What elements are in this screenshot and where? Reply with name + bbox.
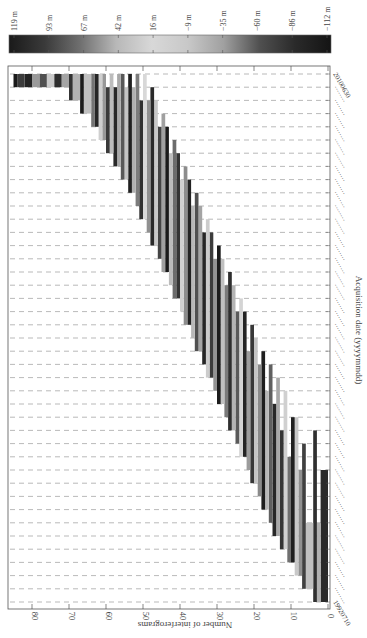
interferogram-bar — [128, 74, 132, 193]
count-tick-label: 70 — [67, 612, 77, 621]
interferogram-bar — [121, 74, 125, 180]
interferogram-bar — [169, 153, 173, 285]
colorbar-tick-label: 42 m — [114, 14, 123, 31]
count-tick-label: 10 — [289, 612, 299, 621]
interferogram-bar — [102, 74, 106, 140]
interferogram-bar — [32, 74, 39, 87]
interferogram-bar — [80, 74, 84, 114]
interferogram-bar — [117, 74, 121, 166]
interferogram-bar — [243, 312, 247, 457]
interferogram-bar — [125, 87, 129, 179]
interferogram-bar — [73, 74, 80, 100]
count-axis-label: Number of interferograms — [137, 620, 232, 630]
interferogram-bar — [187, 180, 191, 325]
interferogram-bar — [158, 127, 162, 259]
count-tick-label: 80 — [30, 612, 40, 621]
interferogram-bar — [162, 114, 166, 272]
interferogram-bar — [47, 74, 54, 87]
interferogram-bar — [291, 417, 295, 562]
interferogram-bar — [199, 206, 203, 351]
interferogram-bar — [276, 378, 280, 536]
interferogram-bar — [113, 87, 117, 166]
interferogram-bar — [132, 87, 136, 193]
interferogram-bar — [258, 364, 262, 496]
interferogram-bar — [317, 523, 321, 602]
colorbar-tick-label: 93 m — [45, 14, 54, 31]
interferogram-bar — [176, 153, 180, 298]
interferogram-bar — [184, 166, 188, 324]
interferogram-bar — [284, 391, 288, 549]
interferogram-bar — [250, 325, 254, 483]
interferogram-bar — [224, 285, 228, 417]
interferogram-bar — [261, 351, 265, 509]
interferogram-bar — [239, 298, 243, 456]
interferogram-bar — [165, 127, 169, 272]
interferogram-bar — [280, 430, 284, 549]
interferogram-bar — [306, 523, 313, 589]
interferogram-bar — [95, 74, 99, 127]
interferogram-bar — [110, 74, 114, 153]
colorbar-tick-label: −9 m — [184, 13, 193, 31]
count-tick-label: 30 — [215, 612, 225, 621]
interferogram-bar — [17, 74, 24, 87]
colorbar-tick-label: −112 m — [323, 6, 332, 31]
interferogram-bar — [295, 417, 299, 575]
count-tick-label: 50 — [141, 612, 151, 621]
colorbar-gradient — [9, 35, 331, 53]
interferogram-bar — [213, 259, 217, 391]
interferogram-bar — [313, 430, 317, 602]
colorbar-tick-label: 67 m — [80, 14, 89, 31]
interferogram-bar — [14, 74, 18, 87]
interferogram-bar — [84, 74, 91, 114]
interferogram-bar — [39, 74, 46, 87]
colorbar-tick-label: −86 m — [288, 9, 297, 31]
interferogram-bar — [254, 338, 258, 483]
interferogram-bar — [302, 444, 306, 589]
count-tick-label: 60 — [104, 612, 114, 621]
colorbar-tick-label: 119 m — [10, 10, 19, 31]
chart-figure: 119 m93 m67 m42 m16 m−9 m−35 m−60 m−86 m… — [0, 0, 367, 638]
interferogram-bar — [217, 246, 221, 404]
interferogram-bar — [99, 74, 103, 140]
colorbar-tick-label: −35 m — [219, 9, 228, 31]
interferogram-bar — [202, 232, 206, 364]
count-tick-label: 40 — [178, 612, 188, 621]
interferogram-bar — [139, 100, 143, 219]
interferogram-bar — [232, 285, 236, 430]
interferogram-bar — [147, 100, 151, 232]
interferogram-bar — [221, 259, 225, 404]
interferogram-bar — [273, 404, 277, 536]
colorbar-tick-label: −60 m — [253, 9, 262, 31]
date-axis-label: Acquisition date (yyyymmdd) — [354, 276, 364, 384]
interferogram-bar — [180, 180, 184, 312]
count-tick-label: 0 — [326, 614, 336, 618]
interferogram-bar — [143, 74, 147, 219]
interferogram-bar — [206, 219, 210, 377]
interferogram-bar — [269, 364, 273, 522]
interferogram-bar — [62, 74, 69, 87]
colorbar-tick-label: 16 m — [149, 14, 158, 31]
interferogram-bar — [195, 193, 199, 351]
interferogram-bar — [210, 232, 214, 377]
chart-svg: 119 m93 m67 m42 m16 m−9 m−35 m−60 m−86 m… — [0, 0, 367, 638]
interferogram-bar — [150, 87, 154, 245]
interferogram-bar — [154, 100, 158, 245]
interferogram-bar — [136, 74, 140, 206]
interferogram-bar — [247, 351, 251, 470]
interferogram-bar — [287, 457, 291, 563]
count-tick-label: 20 — [252, 612, 262, 621]
interferogram-bar — [191, 206, 195, 338]
interferogram-bar — [69, 74, 73, 100]
interferogram-bar — [25, 74, 32, 87]
interferogram-bar — [106, 87, 110, 153]
plot-area: 01020304050607080 19920710··············… — [8, 66, 352, 628]
colorbar: 119 m93 m67 m42 m16 m−9 m−35 m−60 m−86 m… — [9, 6, 332, 53]
interferogram-bar — [228, 272, 232, 430]
interferogram-bar — [265, 391, 269, 510]
interferogram-bar — [91, 74, 95, 127]
interferogram-bar — [236, 312, 240, 444]
interferogram-bar — [173, 140, 177, 298]
interferogram-bar — [298, 470, 302, 576]
interferogram-bar — [54, 74, 61, 87]
